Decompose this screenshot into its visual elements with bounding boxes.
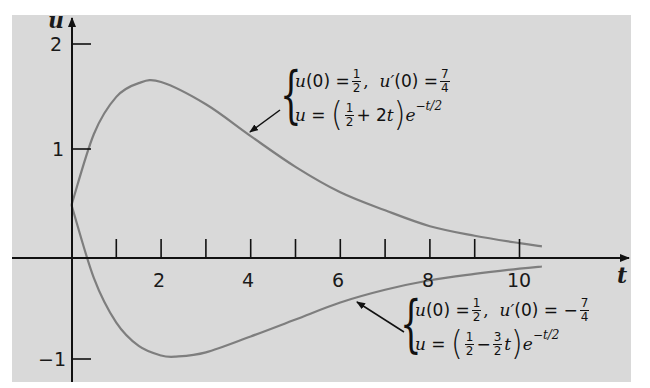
annotation-lower-line1: u(0) = 12, u′(0) = − 74 [415, 293, 591, 327]
exponent: −t/2 [533, 329, 560, 341]
annotation-upper-line2: u = ( 12 + 2t)e−t/2 [295, 98, 452, 132]
comma: , [363, 73, 368, 90]
text-arg: (0) = [306, 73, 350, 90]
text-arg: (0) = − [514, 302, 577, 319]
left-paren: ( [451, 328, 463, 361]
exponent: −t/2 [415, 100, 442, 112]
fraction-three-halves: 32 [493, 331, 503, 358]
minus-sign: − [476, 336, 490, 353]
y-axis-label: u [48, 7, 64, 33]
symbol-e: e [405, 107, 415, 124]
y-ticks [72, 44, 91, 359]
pointer-arrow-lower [357, 302, 404, 332]
equals: = [431, 336, 445, 353]
x-tick-label-6: 6 [332, 269, 344, 291]
comma: , [483, 302, 488, 319]
symbol-u-prime: u′ [380, 73, 395, 90]
x-tick-label-4: 4 [242, 269, 254, 291]
annotation-lower: u(0) = 12, u′(0) = − 74 u = ( 12 − 32t)e… [415, 293, 591, 361]
symbol-u: u [295, 73, 306, 90]
x-axis-label: t [617, 262, 627, 288]
fraction-half: 12 [472, 297, 482, 324]
x-tick-label-10: 10 [507, 269, 531, 291]
annotation-upper-line1: u(0) = 12, u′(0) = 74 [295, 64, 452, 98]
fraction-half: 12 [345, 102, 355, 129]
text-arg: (0) = [394, 73, 438, 90]
x-tick-label-2: 2 [153, 269, 165, 291]
y-tick-label-m1: −1 [38, 348, 66, 370]
pointer-arrow-upper [250, 110, 280, 132]
symbol-e: e [523, 336, 533, 353]
x-ticks [116, 239, 519, 258]
fraction-seven-fourths: 74 [440, 68, 450, 95]
annotation-lower-line2: u = ( 12 − 32t)e−t/2 [415, 327, 591, 361]
y-tick-label-2: 2 [50, 33, 62, 55]
fraction-half: 12 [465, 331, 475, 358]
symbol-u: u [415, 302, 426, 319]
y-tick-label-1: 1 [52, 138, 64, 160]
text-arg: (0) = [426, 302, 470, 319]
symbol-u: u [415, 336, 426, 353]
equals: = [311, 107, 325, 124]
plus-term: + 2 [356, 107, 386, 124]
annotation-upper: u(0) = 12, u′(0) = 74 u = ( 12 + 2t)e−t/… [295, 64, 452, 132]
symbol-t: t [504, 336, 511, 353]
right-paren: ) [394, 99, 406, 132]
symbol-t: t [387, 107, 394, 124]
symbol-u: u [295, 107, 306, 124]
right-paren: ) [511, 328, 523, 361]
x-tick-label-8: 8 [422, 269, 434, 291]
fraction-seven-fourths: 74 [580, 297, 590, 324]
symbol-u-prime: u′ [500, 302, 515, 319]
left-paren: ( [331, 99, 343, 132]
fraction-half: 12 [352, 68, 362, 95]
